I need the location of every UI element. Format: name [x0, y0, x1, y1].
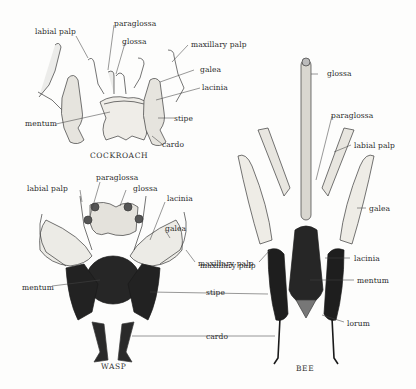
bee-label-mentum: mentum: [357, 277, 389, 285]
cockroach-label-labial-palp: labial palp: [35, 28, 76, 36]
cockroach-caption: COCKROACH: [90, 151, 148, 160]
wasp-drawing: [40, 196, 187, 362]
bee-label-lorum: lorum: [347, 320, 370, 328]
bee-label-lacinia: lacinia: [354, 255, 380, 263]
cockroach-label-mentum: mentum: [25, 120, 57, 128]
bee-label-labial-palp: labial palp: [354, 142, 395, 150]
cockroach-label-stipe: stipe: [174, 115, 193, 123]
mouthparts-diagram: labial palp paraglossa glossa maxillary …: [0, 0, 416, 389]
shared-label-stipe: stipe: [206, 289, 225, 297]
bee-label-maxillary-palp: maxillary palp: [200, 262, 256, 270]
cockroach-label-paraglossa: paraglossa: [114, 20, 156, 28]
wasp-label-paraglossa: paraglossa: [96, 174, 138, 182]
bee-label-galea: galea: [369, 205, 390, 213]
bee-label-paraglossa: paraglossa: [331, 112, 373, 120]
shared-label-cardo: cardo: [206, 333, 228, 341]
wasp-label-galea: galea: [165, 225, 186, 233]
cockroach-label-cardo: cardo: [162, 141, 184, 149]
cockroach-label-lacinia: lacinia: [202, 84, 228, 92]
diagram-artwork: [0, 0, 416, 389]
cockroach-label-glossa: glossa: [122, 38, 146, 46]
wasp-caption: WASP: [101, 362, 126, 371]
bee-caption: BEE: [296, 364, 314, 373]
cockroach-label-maxillary-palp: maxillary palp: [191, 41, 247, 49]
wasp-label-mentum: mentum: [22, 284, 54, 292]
wasp-label-lacinia: lacinia: [167, 195, 193, 203]
wasp-label-labial-palp: labial palp: [27, 185, 68, 193]
cockroach-drawing: [38, 43, 184, 145]
bee-label-glossa: glossa: [327, 70, 351, 78]
wasp-label-glossa: glossa: [133, 185, 157, 193]
cockroach-label-galea: galea: [200, 66, 221, 74]
